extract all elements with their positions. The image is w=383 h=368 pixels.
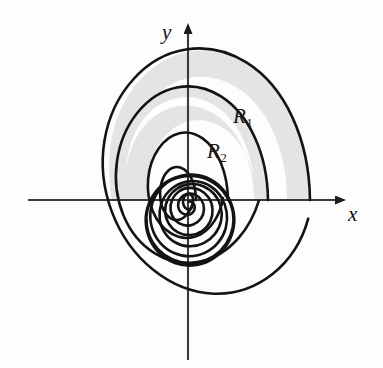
y-axis-label: y	[162, 22, 171, 43]
x-axis-label: x	[348, 204, 357, 225]
figure-canvas	[0, 0, 383, 368]
spiral-figure: y x R1 R2	[0, 0, 383, 368]
region-label-r2: R2	[207, 141, 227, 164]
region-r2-subscript: 2	[220, 150, 227, 165]
region-label-r1: R1	[233, 106, 253, 129]
region-r1-subscript: 1	[246, 115, 253, 130]
region-r1-base: R	[233, 104, 246, 128]
region-r2-base: R	[207, 139, 220, 163]
